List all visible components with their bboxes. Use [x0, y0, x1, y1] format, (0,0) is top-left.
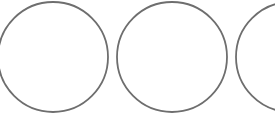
circles-svg [0, 0, 275, 118]
circles-canvas [0, 0, 275, 118]
